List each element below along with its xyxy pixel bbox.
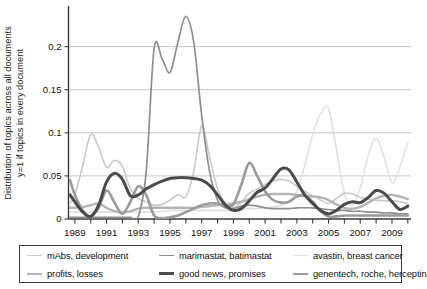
y-tick-label: 0.1 — [48, 127, 61, 138]
x-tick-label: 1999 — [223, 227, 245, 238]
legend-swatch-icon — [159, 272, 174, 275]
x-tick-label: 2009 — [381, 227, 403, 238]
legend-swatch-icon — [293, 273, 308, 275]
legend-item-avastin-breast-cancer: avastin, breast cancer — [293, 250, 401, 261]
legend-label: genentech, roche, herceptin — [313, 268, 427, 279]
legend-swatch-icon — [159, 255, 174, 256]
legend-label: good news, promises — [179, 268, 266, 279]
x-tick-label: 1989 — [64, 227, 86, 238]
x-tick-label: 1993 — [127, 227, 149, 238]
plot-area: 00.050.10.150.21989199119931995199719992… — [0, 0, 419, 240]
series-line — [70, 126, 408, 208]
y-axis-title: Distribution of topics across all docume… — [0, 0, 30, 222]
legend-row: profits, losses good news, promises gene… — [20, 265, 401, 282]
x-tick-label: 1991 — [96, 227, 118, 238]
legend-item-profits-losses: profits, losses — [20, 268, 159, 279]
legend-swatch-icon — [293, 255, 308, 256]
legend-item-good-news-promises: good news, promises — [159, 268, 293, 279]
legend-label: profits, losses — [47, 268, 103, 279]
legend-swatch-icon — [27, 255, 42, 256]
x-tick-label: 2001 — [254, 227, 276, 238]
x-tick-label: 2007 — [349, 227, 371, 238]
legend-label: marimastat, batimastat — [179, 250, 272, 261]
y-tick-label: 0 — [56, 213, 61, 224]
x-tick-label: 2003 — [286, 227, 308, 238]
legend-label: avastin, breast cancer — [313, 250, 403, 261]
x-tick-label: 2005 — [318, 227, 340, 238]
legend-item-genentech-roche-herceptin: genentech, roche, herceptin — [293, 268, 401, 279]
y-axis-title-line2: y=1 if topics in every document — [15, 4, 27, 222]
legend-swatch-icon — [27, 273, 42, 275]
legend-row: mAbs, development marimastat, batimastat… — [20, 247, 401, 264]
y-tick-label: 0.2 — [48, 41, 61, 52]
y-tick-label: 0.05 — [43, 170, 62, 181]
legend-item-mabs-development: mAbs, development — [20, 250, 159, 261]
y-tick-label: 0.15 — [43, 84, 62, 95]
chart-legend: mAbs, development marimastat, batimastat… — [19, 245, 402, 283]
chart-svg: 00.050.10.150.21989199119931995199719992… — [0, 0, 419, 240]
y-axis-title-line1: Distribution of topics across all docume… — [3, 4, 15, 222]
legend-item-marimastat-batimastat: marimastat, batimastat — [159, 250, 293, 261]
x-tick-label: 1995 — [159, 227, 181, 238]
x-tick-label: 1997 — [191, 227, 213, 238]
legend-label: mAbs, development — [47, 250, 128, 261]
